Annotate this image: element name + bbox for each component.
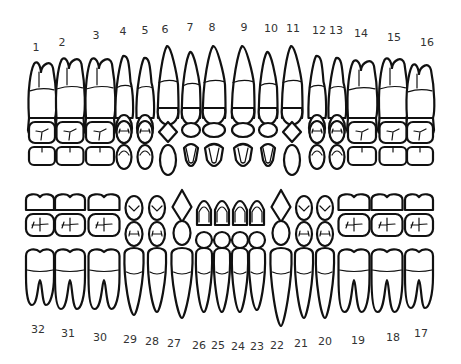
upper-occlusal-14 <box>348 122 376 165</box>
tooth-number-17: 17 <box>414 328 428 339</box>
lower-occlusal-19 <box>339 194 370 236</box>
lower-tooth-24 <box>232 248 248 312</box>
upper-occlusal-8 <box>203 123 225 166</box>
upper-tooth-7 <box>182 52 201 125</box>
lower-tooth-18 <box>372 249 403 312</box>
lower-side-view <box>26 248 433 326</box>
tooth-number-9: 9 <box>241 22 248 33</box>
tooth-number-32: 32 <box>31 324 45 335</box>
lower-occlusal-28 <box>149 196 165 246</box>
lower-occlusal-26 <box>196 201 212 248</box>
tooth-number-23: 23 <box>250 341 264 352</box>
lower-tooth-17 <box>405 249 433 308</box>
tooth-number-13: 13 <box>329 25 343 36</box>
lower-tooth-28 <box>148 248 166 312</box>
tooth-number-21: 21 <box>294 338 308 349</box>
upper-occlusal-11 <box>283 122 301 175</box>
upper-occlusal-10 <box>259 123 277 166</box>
tooth-number-27: 27 <box>167 338 181 349</box>
tooth-number-20: 20 <box>318 336 332 347</box>
upper-occlusal-15 <box>380 122 407 165</box>
upper-tooth-8 <box>203 46 226 125</box>
tooth-number-25: 25 <box>211 340 225 351</box>
lower-occlusal-view <box>26 190 433 248</box>
lower-occlusal-21 <box>296 196 312 246</box>
upper-occlusal-4 <box>117 121 132 169</box>
tooth-number-4: 4 <box>120 26 127 37</box>
tooth-number-6: 6 <box>162 24 169 35</box>
tooth-number-3: 3 <box>93 30 100 41</box>
lower-occlusal-27 <box>173 190 192 245</box>
upper-occlusal-2 <box>57 122 84 165</box>
tooth-number-19: 19 <box>351 335 365 346</box>
upper-tooth-6 <box>158 46 179 125</box>
lower-tooth-32 <box>26 249 54 305</box>
lower-occlusal-20 <box>317 196 333 246</box>
upper-occlusal-13 <box>330 121 345 169</box>
upper-tooth-11 <box>282 46 303 125</box>
lower-occlusal-25 <box>214 201 230 248</box>
upper-occlusal-1 <box>29 122 55 165</box>
tooth-number-31: 31 <box>61 328 75 339</box>
upper-tooth-9 <box>232 46 255 125</box>
tooth-number-30: 30 <box>93 332 107 343</box>
tooth-number-29: 29 <box>123 334 137 345</box>
upper-occlusal-5 <box>138 121 153 169</box>
tooth-number-12: 12 <box>312 25 326 36</box>
lower-tooth-23 <box>249 248 265 310</box>
lower-tooth-31 <box>55 249 85 309</box>
tooth-number-22: 22 <box>270 340 284 351</box>
lower-tooth-21 <box>295 248 313 318</box>
lower-tooth-30 <box>89 249 120 309</box>
tooth-number-5: 5 <box>142 25 149 36</box>
lower-occlusal-29 <box>126 196 143 246</box>
tooth-number-16: 16 <box>420 37 434 48</box>
lower-tooth-22 <box>270 248 291 326</box>
upper-occlusal-16 <box>407 122 433 165</box>
tooth-number-15: 15 <box>387 32 401 43</box>
upper-occlusal-3 <box>86 122 114 165</box>
lower-occlusal-23 <box>249 201 265 248</box>
tooth-number-7: 7 <box>187 22 194 33</box>
lower-occlusal-18 <box>372 194 403 236</box>
lower-tooth-19 <box>339 249 370 312</box>
lower-occlusal-31 <box>55 194 85 236</box>
lower-occlusal-22 <box>272 190 291 245</box>
tooth-number-2: 2 <box>59 37 66 48</box>
tooth-chart: 12345678910111213141516 3231302928272625… <box>0 0 461 364</box>
tooth-number-11: 11 <box>286 23 300 34</box>
lower-tooth-29 <box>124 248 143 315</box>
upper-occlusal-7 <box>182 123 200 166</box>
tooth-number-24: 24 <box>231 341 245 352</box>
tooth-number-1: 1 <box>33 42 40 53</box>
tooth-number-10: 10 <box>264 23 278 34</box>
upper-occlusal-view <box>29 121 433 175</box>
tooth-number-18: 18 <box>386 332 400 343</box>
upper-occlusal-6 <box>159 122 177 175</box>
lower-tooth-26 <box>196 248 212 312</box>
teeth-drawing <box>0 0 461 364</box>
tooth-number-14: 14 <box>354 28 368 39</box>
upper-occlusal-9 <box>232 123 254 166</box>
lower-occlusal-30 <box>89 194 120 236</box>
lower-occlusal-32 <box>26 194 54 236</box>
lower-occlusal-17 <box>405 194 433 236</box>
tooth-number-8: 8 <box>209 22 216 33</box>
tooth-number-28: 28 <box>145 336 159 347</box>
lower-tooth-27 <box>171 248 192 318</box>
tooth-number-26: 26 <box>192 340 206 351</box>
upper-occlusal-12 <box>310 121 325 169</box>
lower-occlusal-24 <box>232 201 248 248</box>
lower-tooth-20 <box>316 248 334 318</box>
upper-tooth-10 <box>259 52 278 125</box>
lower-tooth-25 <box>214 248 230 312</box>
